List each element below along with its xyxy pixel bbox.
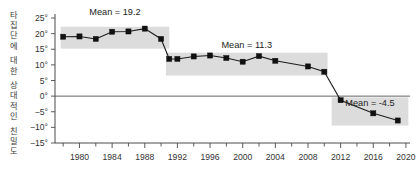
data-point-marker [305,64,310,69]
mean-label-2: Mean = -4.5 [345,98,394,108]
x-tick-label: 1980 [70,152,89,162]
y-axis-title-char: 에 [10,42,18,51]
y-tick-label: 15° [35,44,48,54]
relative-warmth-line-chart: 25°20°15°10°5°0°−5°−10°−15° 198019841988… [0,0,416,178]
x-tick-label: 1984 [103,152,122,162]
y-axis-title-char: 타 [10,11,18,20]
y-axis-title-char: 친 [10,126,18,136]
data-point-marker [142,26,147,31]
y-tick-label: −5° [35,107,48,117]
x-tick-label: 2000 [233,152,252,162]
mean-label-0: Mean = 19.2 [89,7,140,17]
y-axis-title-char: 도 [10,147,18,156]
x-tick-label: 1996 [200,152,219,162]
y-tick-label: 0° [40,91,48,101]
y-axis-ticks: 25°20°15°10°5°0°−5°−10°−15° [30,13,55,148]
y-axis-title-char: 밀 [10,137,18,146]
data-point-marker [371,111,376,116]
y-tick-label: 5° [40,76,48,86]
y-axis-title-char: 대 [10,91,18,100]
data-point-marker [77,34,82,39]
y-axis-title-char: 대 [10,56,18,65]
y-axis-title-char: 집 [10,20,18,30]
data-point-marker [322,69,327,74]
mean-label-1: Mean = 11.3 [221,40,272,50]
y-axis-title-char: 단 [10,30,18,40]
y-tick-label: 10° [35,60,48,70]
x-tick-label: 1988 [135,152,154,162]
data-point-marker [207,53,212,58]
data-point-marker [126,29,131,34]
y-tick-label: 20° [35,29,48,39]
data-point-marker [395,118,400,123]
y-tick-label: 25° [35,13,48,23]
data-point-marker [61,34,66,39]
data-point-marker [167,56,172,61]
data-point-marker [338,98,343,103]
data-point-marker [158,36,163,41]
y-axis-title-char: 상 [10,80,18,90]
data-point-marker [240,59,245,64]
x-tick-label: 1992 [168,152,187,162]
data-point-marker [175,56,180,61]
x-tick-label: 2008 [298,152,317,162]
y-axis-title-char: 인 [10,111,18,121]
chart-canvas: 25°20°15°10°5°0°−5°−10°−15° 198019841988… [0,0,416,178]
data-point-marker [93,36,98,41]
x-axis-ticks: 1980198419881992199620002004200820122016… [63,143,416,162]
y-tick-label: −10° [30,122,48,132]
data-point-marker [191,54,196,59]
data-point-marker [110,29,115,34]
x-tick-label: 2004 [266,152,285,162]
y-tick-label: −15° [30,138,48,148]
x-tick-label: 2016 [364,152,383,162]
mean-band-1 [166,53,328,76]
y-axis-title-char: 적 [10,101,18,111]
data-point-marker [273,58,278,63]
chart-figure: 25°20°15°10°5°0°−5°−10°−15° 198019841988… [0,0,416,178]
x-tick-label: 2012 [331,152,350,162]
y-axis-title: 타집단에대한상대적인친밀도 [10,11,18,156]
x-tick-label: 2020 [396,152,415,162]
data-point-marker [224,55,229,60]
y-axis-title-char: 한 [10,67,18,76]
data-point-marker [256,54,261,59]
